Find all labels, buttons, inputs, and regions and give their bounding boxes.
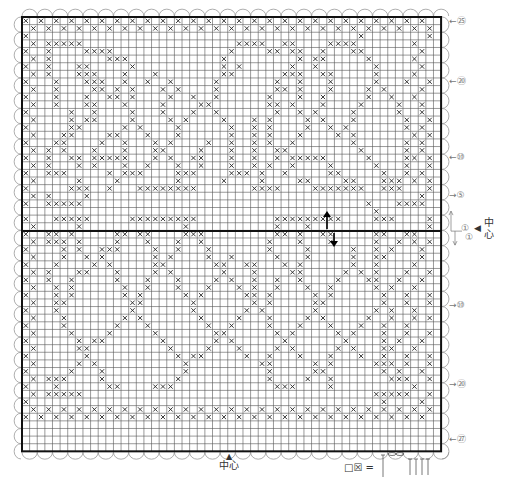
row-label-20-bottom: →⑳ [449, 377, 466, 390]
center-label-right-1: 中 [484, 217, 494, 228]
row-label-25: ←㉕ [449, 14, 466, 27]
row-label-20-top: ←⑳ [449, 74, 466, 87]
row-1-down-label: ① [465, 232, 473, 242]
row-label-27: ←㉗ [449, 432, 466, 445]
center-label-bottom: 中心 [219, 460, 239, 471]
row-label-10-top: ←⑩ [449, 152, 465, 162]
center-marker-right-arrow: ◀ [474, 223, 481, 234]
center-label-right-2: 心 [484, 229, 494, 240]
row-label-5: →⑤ [449, 190, 465, 200]
crochet-chart [0, 0, 506, 487]
row-label-10-bottom: →⑩ [449, 300, 465, 310]
legend-symbols: □☒ = [344, 462, 374, 473]
legend-stitch-icon [380, 451, 440, 479]
